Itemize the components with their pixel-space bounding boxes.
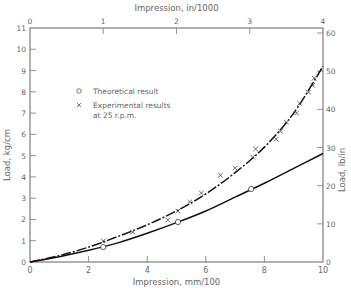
x-tick-label: 10: [318, 266, 328, 275]
x-tick-label: 8: [262, 266, 267, 275]
experimental-point-marker: [294, 111, 299, 116]
x-top-tick-label: 3: [247, 17, 252, 26]
y-right-tick-label: 50: [326, 67, 336, 76]
legend-label-experimental: Experimental results: [93, 101, 171, 110]
y-tick-label: 4: [21, 173, 26, 182]
series-curve-experimental: [30, 66, 323, 262]
y-right-tick-label: 40: [326, 105, 336, 114]
legend-cross-icon: [77, 103, 81, 107]
y-right-axis-label: Load, lb/in: [337, 148, 347, 192]
y-tick-label: 1: [21, 237, 26, 246]
experimental-point-marker: [165, 218, 170, 223]
y-tick-label: 5: [21, 152, 26, 161]
y-axis-label: Load, kg/cm: [2, 129, 12, 181]
y-tick-label: 11: [16, 24, 26, 33]
x-tick-label: 6: [203, 266, 208, 275]
x-tick-label: 4: [145, 266, 150, 275]
y-right-tick-label: 20: [326, 182, 336, 191]
y-right-tick-label: 10: [326, 220, 336, 229]
x-axis-label: Impression, mm/100: [133, 277, 221, 287]
x-tick-label: 0: [27, 266, 32, 275]
experimental-point-marker: [274, 137, 279, 142]
y-tick-label: 3: [21, 194, 26, 203]
legend-circle-icon: [77, 89, 81, 93]
series-curve-theoretical: [30, 154, 323, 262]
theoretical-point-marker: [101, 245, 106, 250]
x-top-tick-label: 2: [174, 17, 179, 26]
theoretical-point-marker: [249, 186, 254, 191]
legend: Theoretical resultExperimental resultsat…: [77, 87, 171, 120]
x-top-axis-label: Impression, in/1000: [134, 3, 218, 13]
experimental-point-marker: [253, 147, 258, 152]
x-top-tick-label: 0: [28, 17, 33, 26]
theoretical-point-marker: [175, 219, 180, 224]
y-right-tick-label: 0: [326, 258, 331, 267]
experimental-point-marker: [233, 166, 238, 171]
y-tick-label: 9: [21, 67, 26, 76]
y-tick-label: 8: [21, 88, 26, 97]
series-layer: [30, 66, 323, 262]
y-right-tick-label: 30: [326, 144, 336, 153]
y-tick-label: 2: [21, 215, 26, 224]
legend-label-theoretical: Theoretical result: [92, 87, 159, 96]
axes: 0246810Impression, mm/10001234Impression…: [2, 3, 347, 287]
y-tick-label: 7: [21, 109, 26, 118]
x-tick-label: 2: [86, 266, 91, 275]
y-tick-label: 6: [21, 130, 26, 139]
y-tick-label: 0: [21, 258, 26, 267]
y-tick-label: 10: [16, 45, 26, 54]
plot-frame: [30, 28, 323, 262]
legend-label-experimental-rpm: at 25 r.p.m.: [93, 111, 136, 120]
x-top-tick-label: 4: [321, 17, 326, 26]
chart: 0246810Impression, mm/10001234Impression…: [0, 0, 351, 288]
experimental-point-marker: [218, 173, 223, 178]
experimental-point-marker: [199, 191, 204, 196]
x-top-tick-label: 1: [101, 17, 106, 26]
y-right-tick-label: 60: [326, 29, 336, 38]
